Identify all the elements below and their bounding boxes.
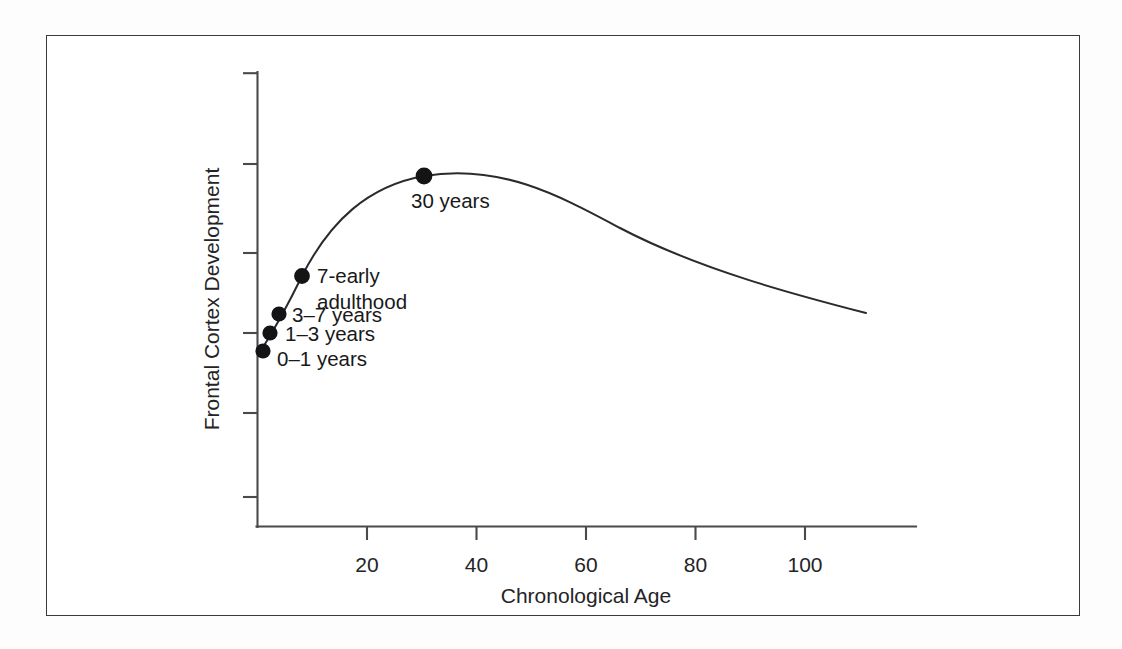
y-axis bbox=[243, 72, 258, 527]
x-axis bbox=[257, 527, 917, 541]
x-tick-label-60: 60 bbox=[574, 553, 597, 576]
point-label-7-early-adulthood-line2: adulthood bbox=[317, 290, 407, 313]
chart-plot-area: 20 40 60 80 100 Chronological Age Fronta… bbox=[0, 0, 1122, 649]
x-tick-label-100: 100 bbox=[787, 553, 822, 576]
x-tick-label-80: 80 bbox=[684, 553, 707, 576]
point-label-0-1-years: 0–1 years bbox=[277, 347, 367, 370]
y-axis-title: Frontal Cortex Development bbox=[200, 168, 223, 431]
x-tick-label-20: 20 bbox=[355, 553, 378, 576]
data-point-3-7-years bbox=[271, 306, 286, 321]
data-point-0-1-years bbox=[255, 343, 270, 358]
point-label-30-years: 30 years bbox=[411, 189, 490, 212]
point-label-7-early: 7-early bbox=[317, 264, 380, 287]
x-axis-title: Chronological Age bbox=[501, 584, 671, 607]
x-tick-label-40: 40 bbox=[465, 553, 488, 576]
data-point-7-early-adulthood bbox=[294, 268, 310, 284]
data-point-30-years bbox=[416, 168, 433, 185]
figure-root: 20 40 60 80 100 Chronological Age Fronta… bbox=[0, 0, 1122, 649]
data-point-1-3-years bbox=[262, 325, 277, 340]
